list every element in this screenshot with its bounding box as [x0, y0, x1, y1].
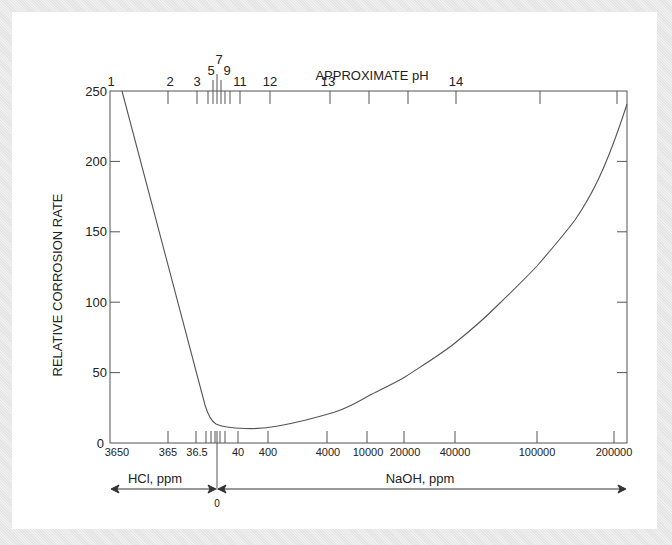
- svg-text:200: 200: [85, 154, 107, 169]
- naoh-range-arrow: [218, 485, 626, 493]
- naoh-label: NaOH, ppm: [386, 471, 455, 486]
- svg-text:100: 100: [85, 295, 107, 310]
- svg-text:50: 50: [93, 365, 107, 380]
- svg-text:250: 250: [85, 84, 107, 99]
- hcl-label: HCl, ppm: [128, 471, 182, 486]
- svg-text:4000: 4000: [316, 446, 340, 458]
- hcl-range-arrow: [111, 485, 216, 493]
- svg-text:7: 7: [215, 52, 222, 67]
- svg-text:5: 5: [207, 63, 214, 78]
- svg-text:150: 150: [85, 224, 107, 239]
- plot-frame: [110, 91, 627, 443]
- corrosion-chart: APPROXIMATE pH RELATIVE CORROSION RATE 0…: [0, 0, 672, 545]
- svg-text:400: 400: [259, 446, 277, 458]
- svg-text:365: 365: [159, 446, 177, 458]
- svg-text:11: 11: [233, 74, 247, 89]
- svg-text:2: 2: [166, 74, 173, 89]
- svg-text:36.5: 36.5: [186, 446, 207, 458]
- zero-marker-label: 0: [214, 498, 220, 509]
- svg-text:200000: 200000: [596, 446, 633, 458]
- bottom-axis-tick-labels: 3650 365 36.5 40 400 4000 10000 20000 40…: [105, 446, 633, 458]
- svg-text:0: 0: [97, 436, 104, 451]
- svg-text:13: 13: [321, 74, 335, 89]
- svg-text:40: 40: [232, 446, 244, 458]
- svg-text:3: 3: [193, 74, 200, 89]
- svg-text:9: 9: [223, 63, 230, 78]
- y-axis-label: RELATIVE CORROSION RATE: [50, 193, 65, 376]
- corrosion-rate-curve: [122, 91, 627, 429]
- svg-text:20000: 20000: [390, 446, 421, 458]
- svg-text:100000: 100000: [519, 446, 556, 458]
- svg-text:14: 14: [449, 74, 463, 89]
- svg-text:12: 12: [263, 74, 277, 89]
- svg-text:10000: 10000: [353, 446, 384, 458]
- svg-text:40000: 40000: [440, 446, 471, 458]
- svg-text:1: 1: [107, 74, 114, 89]
- y-axis-tick-labels: 0 50 100 150 200 250: [85, 84, 107, 451]
- svg-text:3650: 3650: [105, 446, 129, 458]
